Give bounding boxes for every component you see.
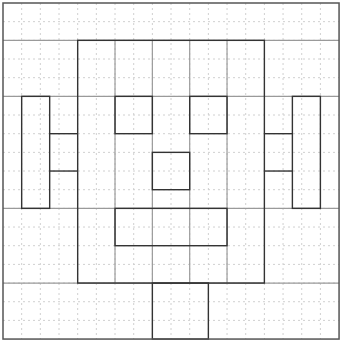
grid-drawing-canvas: [0, 0, 340, 350]
face: [78, 40, 265, 283]
gray-guide-lines: [3, 40, 339, 283]
left-ear: [22, 96, 50, 208]
neck: [152, 283, 208, 339]
right-ear: [292, 96, 320, 208]
